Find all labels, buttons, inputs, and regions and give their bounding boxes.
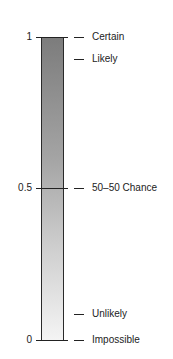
dash-fifty-fifty bbox=[74, 188, 84, 189]
axis-label-0: 0 bbox=[2, 335, 32, 345]
tick-0-5 bbox=[36, 188, 68, 189]
dash-certain bbox=[74, 37, 84, 38]
tick-0 bbox=[36, 340, 68, 341]
dash-unlikely bbox=[74, 314, 84, 315]
label-impossible: Impossible bbox=[92, 335, 140, 345]
tick-1 bbox=[36, 37, 68, 38]
axis-label-1: 1 bbox=[2, 32, 32, 42]
label-fifty-fifty: 50–50 Chance bbox=[92, 183, 157, 193]
label-likely: Likely bbox=[92, 54, 118, 64]
label-certain: Certain bbox=[92, 32, 124, 42]
axis-label-0-5: 0.5 bbox=[2, 183, 32, 193]
dash-likely bbox=[74, 59, 84, 60]
dash-impossible bbox=[74, 340, 84, 341]
label-unlikely: Unlikely bbox=[92, 309, 127, 319]
